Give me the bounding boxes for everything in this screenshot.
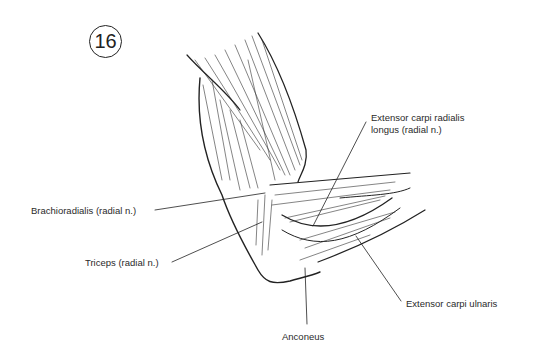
label-ecrl-line1: Extensor carpi radialis	[371, 112, 464, 123]
elbow-illustration	[0, 0, 535, 349]
label-brachioradialis: Brachioradialis (radial n.)	[31, 205, 136, 216]
label-extensor-carpi-ulnaris: Extensor carpi ulnaris	[406, 298, 497, 309]
label-ecrl-line2: longus (radial n.)	[371, 124, 442, 135]
label-anconeus: Anconeus	[282, 331, 324, 342]
label-triceps: Triceps (radial n.)	[85, 257, 159, 268]
